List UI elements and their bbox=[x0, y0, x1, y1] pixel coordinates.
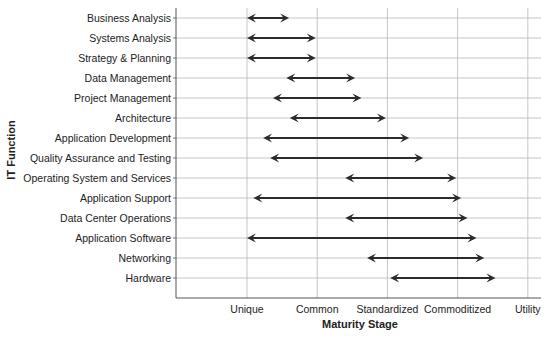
category-label: Hardware bbox=[125, 272, 171, 284]
range-arrow bbox=[286, 74, 355, 83]
category-labels: Business AnalysisSystems AnalysisStrateg… bbox=[23, 12, 171, 284]
grid bbox=[176, 8, 541, 298]
x-tick-label: Commoditized bbox=[424, 303, 491, 315]
range-arrow bbox=[247, 14, 289, 23]
range-arrow bbox=[345, 174, 456, 183]
maturity-chart: Business AnalysisSystems AnalysisStrateg… bbox=[0, 0, 548, 338]
range-arrows bbox=[247, 14, 496, 283]
category-label: Application Support bbox=[80, 192, 171, 204]
range-arrow bbox=[345, 214, 467, 223]
y-axis-title: IT Function bbox=[5, 120, 17, 180]
x-tick-label: Unique bbox=[230, 303, 263, 315]
category-label: Data Center Operations bbox=[60, 212, 171, 224]
range-arrow bbox=[270, 154, 423, 163]
x-tick-label: Utility bbox=[515, 303, 541, 315]
category-label: Application Software bbox=[75, 232, 171, 244]
range-arrow bbox=[253, 194, 461, 203]
x-tick-label: Standardized bbox=[356, 303, 418, 315]
range-arrow bbox=[290, 114, 386, 123]
category-label: Systems Analysis bbox=[89, 32, 171, 44]
x-tick-labels: UniqueCommonStandardizedCommoditizedUtil… bbox=[230, 303, 541, 315]
category-label: Application Development bbox=[55, 132, 171, 144]
range-arrow bbox=[367, 254, 484, 263]
category-label: Architecture bbox=[115, 112, 171, 124]
range-arrow bbox=[390, 274, 495, 283]
x-axis-title: Maturity Stage bbox=[322, 318, 398, 330]
category-label: Project Management bbox=[74, 92, 171, 104]
range-arrow bbox=[247, 34, 316, 43]
category-label: Networking bbox=[118, 252, 171, 264]
category-label: Data Management bbox=[85, 72, 171, 84]
axes bbox=[173, 8, 541, 298]
category-label: Strategy & Planning bbox=[78, 52, 171, 64]
category-label: Quality Assurance and Testing bbox=[30, 152, 171, 164]
range-arrow bbox=[247, 54, 316, 63]
category-label: Business Analysis bbox=[87, 12, 171, 24]
category-label: Operating System and Services bbox=[23, 172, 171, 184]
x-tick-label: Common bbox=[296, 303, 339, 315]
range-arrow bbox=[247, 234, 477, 243]
